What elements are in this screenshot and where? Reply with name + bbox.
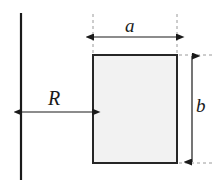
rectangle-body [93,55,177,163]
width-dimension-label: a [125,16,135,35]
dimension-diagram: a b R [0,0,218,191]
height-dimension-label: b [196,96,206,115]
diagram-canvas [0,0,218,191]
offset-dimension-label: R [48,88,60,108]
